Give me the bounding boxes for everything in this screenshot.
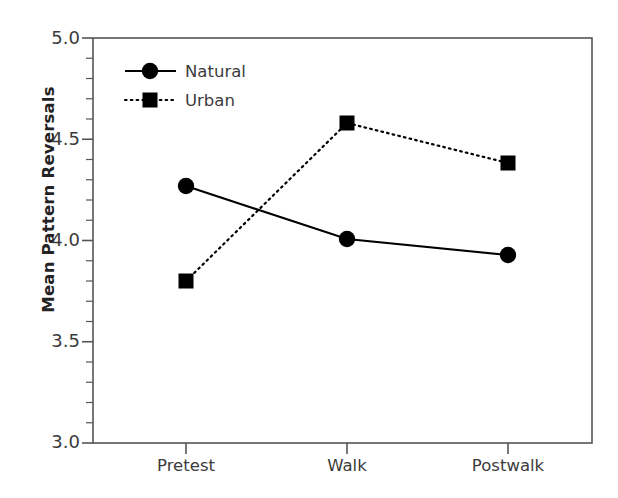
data-point-urban-pretest [179,274,194,289]
data-point-natural-walk [339,231,355,247]
legend-sample-natural [125,63,176,79]
series-urban [179,116,516,289]
legend-sample-urban [125,93,176,108]
legend-marker-circle-icon [142,63,158,79]
data-point-natural-postwalk [500,247,516,263]
series-natural [178,178,516,263]
data-point-natural-pretest [178,178,194,194]
data-point-urban-walk [340,116,355,131]
legend-marker-square-icon [143,93,158,108]
x-ticks [186,443,508,454]
chart-figure: Mean Pattern Reversals 5.0 4.5 4.0 3.5 3… [0,0,618,498]
plot-svg [0,0,618,498]
data-point-urban-postwalk [501,156,516,171]
